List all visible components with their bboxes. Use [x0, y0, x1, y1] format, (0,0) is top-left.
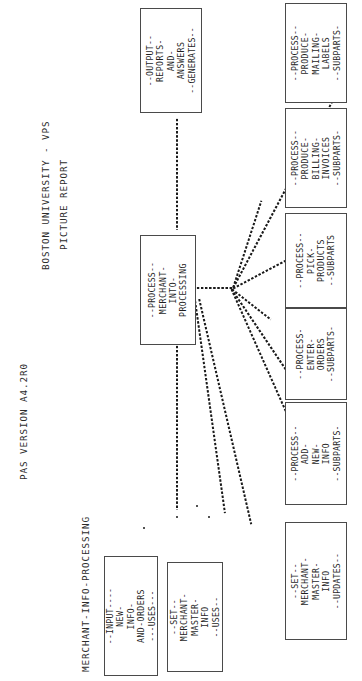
- box-line: NEW-: [311, 443, 321, 465]
- box-line: MERCHANT-: [300, 557, 310, 605]
- box-line: INVOICES: [321, 136, 331, 179]
- box-input-new-info-and-orders[interactable]: --INPUT---- NEW- INFO- AND-ORDERS ---USE…: [104, 556, 158, 676]
- box-line: BILLING-: [311, 136, 321, 179]
- box-top-rule: --PROCESS--: [147, 262, 157, 318]
- box-top-rule: --SET--: [290, 563, 300, 599]
- box-bottom-rule: --UPDATES--: [332, 553, 342, 609]
- box-output-reports-and-answers[interactable]: --OUTPUT-- REPORTS- AND- ANSWERS --GENER…: [140, 8, 202, 113]
- box-bottom-rule: ---USES---: [147, 590, 157, 641]
- box-line: ADD-: [300, 443, 310, 465]
- box-set-merchant-master-info-updates[interactable]: --SET-- MERCHANT- MASTER- INFO --UPDATES…: [285, 522, 347, 640]
- box-top-rule: --INPUT----: [105, 588, 115, 644]
- box-line: PRODUCE-: [300, 31, 310, 74]
- box-set-merchant-master-info-uses[interactable]: --SET-- MERCHANT- MASTER- INFO --USES--: [167, 562, 223, 672]
- box-process-enter-orders[interactable]: --PROCESS- ENTER- ORDERS --SUBPARTS-: [285, 308, 347, 400]
- picture-report-canvas: PAS VERSION A4.2R0 BOSTON UNIVERSITY - V…: [0, 0, 362, 681]
- box-top-rule: --PROCESS--: [290, 425, 300, 481]
- box-line: PRODUCE-: [300, 136, 310, 179]
- connector-hub-horizontal: [196, 287, 232, 289]
- connector-lower-left-a: [194, 300, 226, 513]
- box-bottom-rule: --GENERATES--: [187, 27, 197, 94]
- box-bottom-rule: --SUBPARTS: [326, 235, 336, 286]
- box-bottom-rule: --SUBPARTS-: [326, 326, 336, 382]
- box-line: MERCHANT-: [158, 266, 168, 314]
- connector-input-spine: [176, 345, 178, 510]
- box-line: LABELS: [321, 37, 331, 69]
- box-line: PRODUCTS: [316, 239, 326, 282]
- box-line: INTO-: [168, 277, 178, 304]
- box-line: REPORTS-: [155, 39, 165, 82]
- box-line: INFO: [321, 570, 331, 592]
- box-top-rule: --PROCESS-: [295, 328, 305, 379]
- institution-label: BOSTON UNIVERSITY - VPS: [40, 121, 51, 270]
- box-top-rule: --PROCESS--: [295, 232, 305, 288]
- box-bottom-rule: --SUBPARTS-: [332, 425, 342, 481]
- box-top-rule: --OUTPUT--: [145, 35, 155, 86]
- box-top-rule: --PROCESS--: [290, 130, 300, 186]
- report-title-label: PICTURE REPORT: [58, 159, 69, 250]
- box-line: ENTER-: [306, 338, 316, 370]
- box-line: NEW-: [115, 605, 125, 627]
- box-line: MASTER-: [311, 562, 321, 600]
- box-top-rule: --SET--: [169, 599, 179, 635]
- box-line: ANSWERS: [176, 42, 186, 80]
- marker-dot: [143, 527, 145, 529]
- box-bottom-rule: --SUBPARTS-: [332, 130, 342, 186]
- box-line: INFO: [321, 443, 331, 465]
- box-process-merchant-into-processing[interactable]: --PROCESS-- MERCHANT- INTO- PROCESSING: [140, 235, 196, 345]
- box-process-add-new-info[interactable]: --PROCESS-- ADD- NEW- INFO --SUBPARTS-: [285, 402, 347, 505]
- connector-output-spine: [176, 118, 178, 230]
- box-line: AND-ORDERS: [136, 589, 146, 643]
- marker-dot: [208, 516, 210, 518]
- box-line: PICK-: [306, 247, 316, 274]
- box-line: AND-: [166, 50, 176, 72]
- box-line: INFO-: [126, 603, 136, 630]
- box-line: MERCHANT-: [179, 593, 189, 641]
- marker-dot: [176, 516, 178, 518]
- box-process-pick-products[interactable]: --PROCESS-- PICK- PRODUCTS --SUBPARTS: [285, 213, 347, 308]
- box-line: PROCESSING: [178, 263, 188, 317]
- box-top-rule: --PROCESS--: [290, 25, 300, 81]
- connector-lower-left-b: [198, 298, 252, 525]
- box-bottom-rule: --USES--: [211, 596, 221, 637]
- box-line: MASTER-: [190, 598, 200, 636]
- box-process-produce-billing-invoices[interactable]: --PROCESS-- PRODUCE- BILLING- INVOICES -…: [285, 108, 347, 208]
- box-line: INFO: [200, 606, 210, 628]
- marker-dot: [196, 505, 198, 507]
- box-bottom-rule: --SUBPARTS-: [332, 25, 342, 81]
- subject-label: MERCHANT-INFO-PROCESSING: [80, 516, 91, 672]
- box-process-produce-mailing-labels[interactable]: --PROCESS-- PRODUCE- MAILING- LABELS --S…: [285, 3, 347, 103]
- pas-version-label: PAS VERSION A4.2R0: [18, 363, 29, 480]
- box-line: ORDERS: [316, 338, 326, 370]
- box-line: MAILING-: [311, 31, 321, 74]
